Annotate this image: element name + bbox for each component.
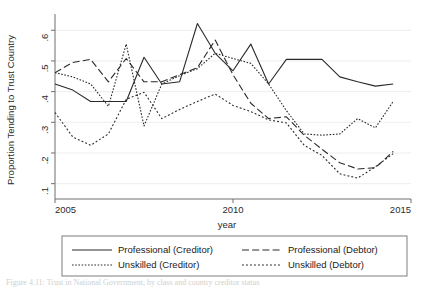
x-tick-label: 2005 xyxy=(55,204,76,215)
y-tick-label: .5 xyxy=(39,64,50,72)
x-axis-title: year xyxy=(218,219,236,230)
series-line-unskilled-debtor xyxy=(55,92,393,178)
data-series-group xyxy=(55,24,393,179)
x-tick-label: 2015 xyxy=(390,204,411,215)
trust-line-chart: .1.2.3.4.5.6200520102015 Proportion Tend… xyxy=(0,0,429,287)
chart-legend: Professional (Creditor)Professional (Deb… xyxy=(62,236,407,276)
y-tick-label: .4 xyxy=(39,95,50,103)
figure-container: .1.2.3.4.5.6200520102015 Proportion Tend… xyxy=(0,0,429,287)
y-tick-label: .2 xyxy=(39,156,50,164)
series-line-professional-debtor xyxy=(55,40,393,169)
legend-label-professional-creditor: Professional (Creditor) xyxy=(118,244,213,255)
x-tick-label: 2010 xyxy=(222,204,243,215)
legend-label-professional-debtor: Professional (Debtor) xyxy=(288,244,378,255)
tick-marks xyxy=(51,30,411,203)
gridlines xyxy=(55,30,411,183)
y-axis-title: Proportion Tending to Trust Country xyxy=(5,35,16,185)
figure-caption: Figure 4.11: Trust in National Governmen… xyxy=(6,278,260,287)
axes xyxy=(55,14,411,199)
series-line-professional-creditor xyxy=(55,24,393,102)
legend-label-unskilled-creditor: Unskilled (Creditor) xyxy=(118,259,199,270)
y-tick-label: .6 xyxy=(39,34,50,42)
y-tick-label: .1 xyxy=(39,187,50,195)
y-tick-label: .3 xyxy=(39,126,50,134)
series-line-unskilled-creditor xyxy=(55,44,393,135)
legend-label-unskilled-debtor: Unskilled (Debtor) xyxy=(288,259,364,270)
